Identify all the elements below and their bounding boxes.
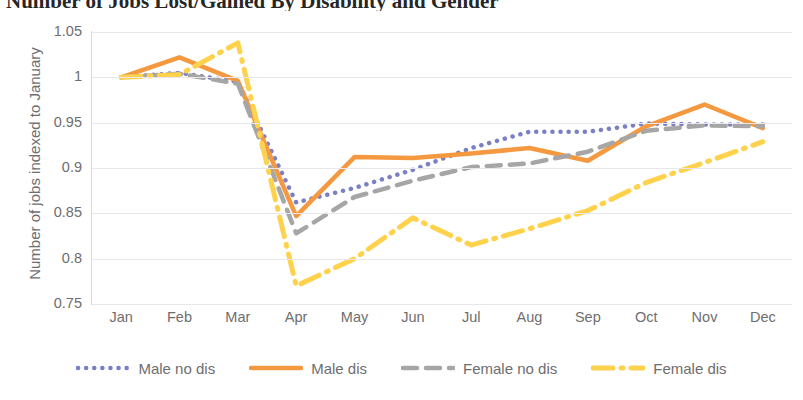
chart-container: Number of Jobs Lost/Gained By Disability…	[0, 0, 803, 400]
dotted-line-swatch	[76, 363, 130, 373]
series-line-male-no-dis	[121, 73, 763, 203]
gridline	[92, 259, 792, 260]
chart-legend: Male no disMale disFemale no disFemale d…	[0, 352, 803, 384]
dashdot-line-swatch	[591, 363, 645, 373]
y-axis-tick-label: 0.8	[62, 250, 82, 266]
x-axis-tick-label: Jun	[401, 309, 424, 325]
y-axis-tick-label: 0.95	[54, 114, 82, 130]
y-axis-tick-label: 0.9	[62, 159, 82, 175]
x-axis-tick-label: Aug	[517, 309, 543, 325]
legend-item-female-no-dis[interactable]: Female no dis	[401, 361, 557, 376]
legend-item-male-dis[interactable]: Male dis	[249, 361, 367, 376]
gridline	[92, 123, 792, 124]
x-axis-tick-label: Nov	[692, 309, 718, 325]
y-axis-tick-label: 1.05	[54, 23, 82, 39]
x-axis-tick-label: Jan	[109, 309, 132, 325]
legend-item-male-no-dis[interactable]: Male no dis	[76, 361, 215, 376]
chart-title-strip: Number of Jobs Lost/Gained By Disability…	[0, 0, 803, 11]
series-line-female-no-dis	[121, 74, 763, 234]
x-axis-tick-label: Dec	[750, 309, 776, 325]
gridline	[92, 168, 792, 169]
x-axis-tick-label: Apr	[285, 309, 308, 325]
legend-label: Male dis	[311, 361, 367, 376]
solid-line-swatch	[249, 363, 303, 373]
y-axis-tick-label: 0.85	[54, 204, 82, 220]
y-axis-title: Number of jobs indexed to January	[26, 24, 43, 304]
legend-label: Male no dis	[138, 361, 215, 376]
x-axis-tick-label: Mar	[225, 309, 250, 325]
x-axis-tick-label: Sep	[575, 309, 601, 325]
gridline	[92, 213, 792, 214]
legend-item-female-dis[interactable]: Female dis	[591, 361, 726, 376]
y-axis-labels: Number of jobs indexed to January 1.0510…	[0, 0, 90, 400]
x-axis-tick-label: Jul	[462, 309, 481, 325]
gridline	[92, 304, 792, 305]
x-axis-tick-label: Oct	[635, 309, 658, 325]
gridline	[92, 32, 792, 33]
dashed-line-swatch	[401, 363, 455, 373]
y-axis-tick-label: 0.75	[54, 295, 82, 311]
x-axis-tick-label: Feb	[167, 309, 192, 325]
plot-area	[92, 32, 792, 304]
x-axis-labels: JanFebMarAprMayJunJulAugSepOctNovDec	[92, 309, 792, 333]
y-axis-tick-label: 1	[74, 68, 82, 84]
legend-label: Female no dis	[463, 361, 557, 376]
gridline	[92, 77, 792, 78]
legend-label: Female dis	[653, 361, 726, 376]
x-axis-tick-label: May	[341, 309, 368, 325]
